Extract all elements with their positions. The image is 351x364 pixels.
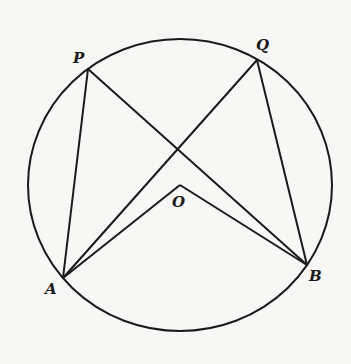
segment-pa <box>63 69 88 278</box>
geometry-diagram: P Q A B O <box>0 0 351 364</box>
radius-ob <box>180 185 307 265</box>
label-point-a: A <box>45 282 57 297</box>
label-point-q: Q <box>256 38 269 53</box>
radius-oa <box>63 185 180 278</box>
segment-qa <box>63 60 257 278</box>
label-point-p: P <box>73 51 84 66</box>
label-center-o: O <box>172 195 185 210</box>
segment-pb <box>88 69 307 265</box>
label-point-b: B <box>309 269 322 284</box>
circle-figure <box>0 0 351 364</box>
segment-qb <box>257 60 307 265</box>
